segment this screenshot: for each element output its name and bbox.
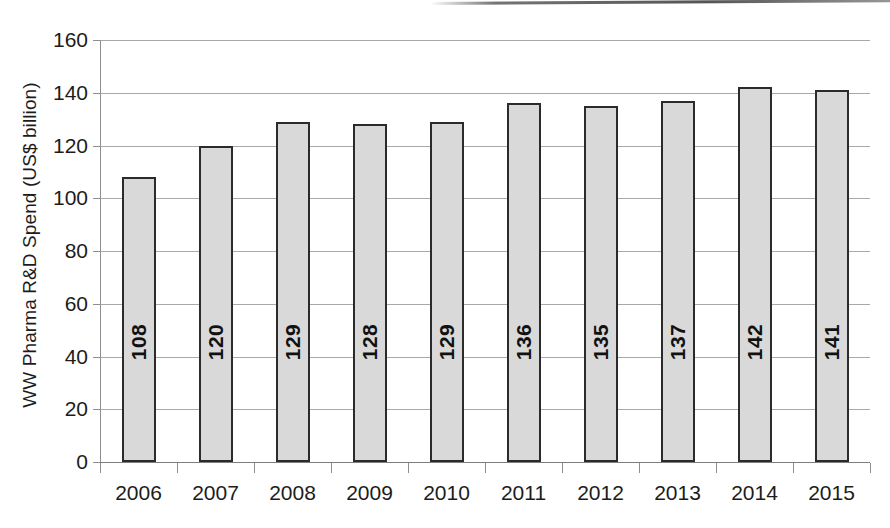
y-axis-title: WW Pharma R&D Spend (US$ billion) [19,35,41,455]
bar[interactable]: 135 [584,106,618,462]
plot-area: 108120129128129136135137142141 [100,40,870,462]
bar-value-label: 129 [281,324,305,361]
bar[interactable]: 128 [353,124,387,462]
gridline [100,40,870,41]
x-tick-mark [870,463,871,473]
x-tick-mark [793,463,794,473]
bar[interactable]: 137 [661,101,695,462]
x-tick-mark [716,463,717,473]
bar-value-label: 135 [589,324,613,361]
scan-artifact-line [430,0,890,5]
x-tick-mark [408,463,409,473]
bar-value-label: 129 [435,324,459,361]
bar-chart: WW Pharma R&D Spend (US$ billion) 020406… [0,0,890,528]
x-tick-mark [562,463,563,473]
bar[interactable]: 129 [430,122,464,462]
x-tick-mark [485,463,486,473]
x-tick-mark [639,463,640,473]
x-tick-mark [177,463,178,473]
bar-value-label: 137 [666,324,690,361]
bar[interactable]: 141 [815,90,849,462]
bar[interactable]: 142 [738,87,772,462]
x-tick-mark [100,463,101,473]
bar-value-label: 142 [743,324,767,361]
bar-value-label: 108 [127,324,151,361]
x-tick-mark [331,463,332,473]
x-tick-label: 2015 [787,482,877,503]
bar-value-label: 141 [820,324,844,361]
bar-value-label: 120 [204,324,228,361]
bar[interactable]: 120 [199,146,233,463]
bar[interactable]: 108 [122,177,156,462]
bar-value-label: 128 [358,324,382,361]
bar[interactable]: 129 [276,122,310,462]
bar[interactable]: 136 [507,103,541,462]
bar-value-label: 136 [512,324,536,361]
x-tick-mark [254,463,255,473]
